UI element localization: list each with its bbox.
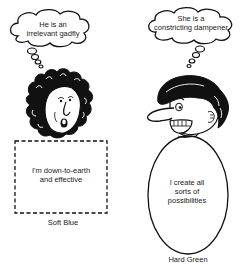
left-body-line-1: I'm down-to-earth <box>15 166 107 175</box>
right-body-line-1: I create all <box>150 178 224 187</box>
right-body-text: I create all sorts of possibilities <box>150 178 224 205</box>
left-caption: Soft Blue <box>15 218 111 227</box>
right-body-line-2: sorts of <box>150 187 224 196</box>
left-thought-bubbles <box>28 48 44 68</box>
left-thought-text: He is an irrelevant gadfly <box>18 20 88 38</box>
right-character-head <box>148 76 229 138</box>
right-caption: Hard Green <box>148 255 228 264</box>
right-thought-line-2: constricting dampener <box>150 23 232 32</box>
left-character-head <box>26 69 92 138</box>
right-body-line-3: possibilities <box>150 196 224 205</box>
right-thought-line-1: She is a <box>150 14 232 23</box>
left-thought-line-2: irrelevant gadfly <box>18 29 88 38</box>
right-thought-text: She is a constricting dampener <box>150 14 232 32</box>
right-thought-bubbles <box>187 46 205 68</box>
left-body-line-2: and effective <box>15 175 107 184</box>
left-body-text: I'm down-to-earth and effective <box>15 166 107 184</box>
left-thought-line-1: He is an <box>18 20 88 29</box>
